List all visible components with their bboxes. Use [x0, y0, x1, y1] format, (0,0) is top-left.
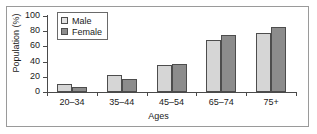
bar-male-1: [107, 75, 122, 92]
bar-female-2: [172, 64, 187, 92]
legend-swatch-male-icon: [61, 17, 68, 24]
bar-male-2: [157, 65, 172, 92]
bar-male-3: [206, 40, 221, 92]
x-tick-mark: [97, 92, 98, 96]
y-tick: 40: [0, 62, 47, 63]
y-tick-label: 0: [35, 86, 40, 96]
y-axis-title: Population (%): [11, 3, 21, 83]
y-tick-label: 80: [30, 25, 40, 35]
bar-female-3: [221, 35, 236, 92]
y-tick-label: 20: [30, 71, 40, 81]
x-tick-mark: [196, 92, 197, 96]
x-tick-label: 75+: [263, 97, 278, 107]
x-tick-label: 45–54: [159, 97, 184, 107]
x-tick-mark: [47, 92, 48, 96]
legend-label-male: Male: [72, 16, 92, 26]
x-axis-line: [47, 92, 297, 93]
x-tick-label: 20–34: [59, 97, 84, 107]
bar-male-0: [57, 84, 72, 92]
bar-female-0: [72, 87, 87, 92]
x-tick-mark: [147, 92, 148, 96]
legend-item-male: Male: [61, 15, 102, 26]
y-tick-label: 40: [30, 56, 40, 66]
bar-male-4: [256, 33, 271, 92]
x-tick-label: 65–74: [209, 97, 234, 107]
bar-female-4: [271, 27, 286, 92]
x-axis-title: Ages: [0, 111, 317, 121]
bar-female-1: [122, 79, 137, 92]
legend-label-female: Female: [72, 27, 102, 37]
y-tick: 60: [0, 46, 47, 47]
y-tick: 0: [0, 92, 47, 93]
x-tick-mark: [246, 92, 247, 96]
x-tick-mark: [296, 92, 297, 96]
y-tick-label: 60: [30, 40, 40, 50]
y-tick: 20: [0, 77, 47, 78]
y-tick-label: 100: [25, 10, 40, 20]
legend-swatch-female-icon: [61, 28, 68, 35]
legend: Male Female: [57, 12, 108, 40]
bar-chart-figure: Population (%) 020406080100 20–3435–4445…: [0, 0, 317, 134]
y-tick: 80: [0, 31, 47, 32]
x-tick-label: 35–44: [109, 97, 134, 107]
legend-item-female: Female: [61, 26, 102, 37]
y-tick: 100: [0, 16, 47, 17]
